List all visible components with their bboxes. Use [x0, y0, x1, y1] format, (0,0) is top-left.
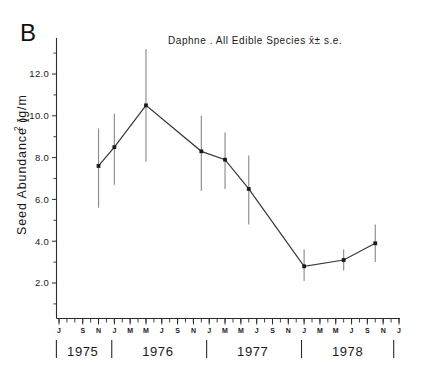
data-point-marker [97, 164, 101, 168]
x-tick-label: S [365, 327, 370, 334]
chart-title: Daphne . All Edible Species x̄± s.e. [168, 35, 342, 46]
data-point-marker [112, 145, 116, 149]
y-tick-label: 2.0 [35, 277, 49, 288]
data-point-marker [342, 258, 346, 262]
y-axis-title-text: Seed Abundance (g/m [15, 94, 29, 235]
x-tick-label: J [302, 327, 306, 334]
y-axis-title: Seed Abundance (g/m ) 2 [12, 94, 29, 235]
data-point-marker [247, 187, 251, 191]
y-tick-label: 4.0 [35, 236, 49, 247]
x-tick-label: J [112, 327, 116, 334]
figure-panel: B Daphne . All Edible Species x̄± s.e. S… [0, 0, 422, 366]
chart-background [0, 0, 422, 366]
x-tick-label: N [381, 327, 386, 334]
x-tick-label: M [333, 327, 339, 334]
x-tick-label: S [270, 327, 275, 334]
x-tick-label: N [191, 327, 196, 334]
x-tick-label: M [222, 327, 228, 334]
x-tick-label: M [238, 327, 244, 334]
data-point-marker [144, 103, 148, 107]
year-label: 1977 [237, 344, 268, 359]
y-tick-label: 8.0 [35, 152, 49, 163]
year-label: 1978 [332, 344, 363, 359]
x-tick-label: M [317, 327, 323, 334]
data-point-marker [199, 149, 203, 153]
x-tick-label: M [143, 327, 149, 334]
x-tick-label: N [286, 327, 291, 334]
data-point-marker [302, 264, 306, 268]
seed-abundance-chart: B Daphne . All Edible Species x̄± s.e. S… [0, 0, 422, 366]
panel-letter: B [20, 19, 36, 46]
data-point-marker [373, 241, 377, 245]
year-label: 1976 [142, 344, 173, 359]
x-tick-label: S [80, 327, 85, 334]
x-tick-label: J [255, 327, 259, 334]
x-tick-label: J [397, 327, 401, 334]
x-tick-label: M [127, 327, 133, 334]
y-tick-label: 6.0 [35, 194, 49, 205]
x-tick-label: J [57, 327, 61, 334]
y-tick-label: 10.0 [29, 110, 49, 121]
y-axis-title-unit-close: ) [15, 117, 29, 122]
x-tick-label: J [350, 327, 354, 334]
x-tick-label: J [160, 327, 164, 334]
data-point-marker [223, 158, 227, 162]
y-tick-label: 12.0 [29, 68, 49, 79]
x-tick-label: J [207, 327, 211, 334]
y-axis-superscript-2: 2 [12, 126, 22, 131]
year-label: 1975 [67, 344, 98, 359]
x-tick-label: S [175, 327, 180, 334]
x-tick-label: N [96, 327, 101, 334]
